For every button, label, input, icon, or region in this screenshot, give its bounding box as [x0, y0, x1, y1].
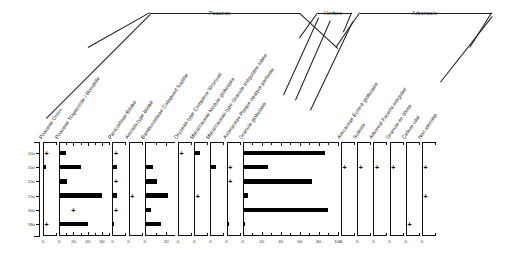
taxon-panel[interactable]: 0+ — [341, 142, 354, 236]
bar[interactable] — [59, 222, 88, 226]
panel-axis-top — [357, 142, 370, 143]
taxon-panel[interactable]: 020 — [145, 142, 175, 236]
panel-tick-label: 0 — [111, 239, 113, 244]
trace-marker: + — [71, 206, 75, 213]
panel-tick — [370, 142, 371, 145]
bar[interactable] — [243, 222, 245, 226]
panel-tick — [73, 232, 74, 236]
trace-marker: + — [424, 192, 428, 199]
panel-tick — [145, 142, 146, 146]
panel-tick-label: 40 — [278, 239, 283, 244]
panel-axis-bottom — [227, 235, 240, 236]
bar[interactable] — [227, 222, 229, 226]
panel-axis-bottom — [341, 235, 354, 236]
panel-tick — [102, 232, 103, 236]
panel-value-axis — [390, 142, 391, 236]
panel-tick — [156, 142, 157, 145]
bar[interactable] — [194, 151, 200, 155]
panel-tick — [166, 142, 167, 146]
bar[interactable] — [210, 165, 215, 169]
bar[interactable] — [112, 165, 116, 169]
panel-tick — [223, 233, 224, 236]
bar[interactable] — [145, 193, 169, 197]
bar[interactable] — [112, 222, 114, 226]
panel-tick — [370, 233, 371, 236]
bar[interactable] — [112, 193, 116, 197]
group-rule-herbes — [318, 13, 352, 14]
bar[interactable] — [243, 208, 329, 212]
panel-tick — [112, 142, 113, 146]
panel-tick — [56, 142, 57, 145]
panel-tick — [435, 142, 436, 145]
panel-tick — [227, 142, 228, 146]
panel-value-axis — [210, 142, 211, 236]
taxon-panel[interactable]: 0+++ — [112, 142, 125, 236]
bar[interactable] — [243, 193, 248, 197]
panel-tick — [88, 232, 89, 236]
panel-axis-top — [227, 142, 240, 143]
panel-tick — [166, 232, 167, 236]
panel-tick — [309, 233, 310, 236]
panel-tick-label: 0 — [42, 239, 44, 244]
panel-tick — [338, 142, 339, 146]
taxon-panel[interactable]: 0++ — [227, 142, 240, 236]
bar[interactable] — [145, 208, 151, 212]
panel-tick — [81, 142, 82, 145]
trace-marker: + — [391, 164, 395, 171]
taxon-panel[interactable]: 020406080100 — [243, 142, 338, 236]
taxon-panel[interactable]: 0+ — [178, 142, 191, 236]
panel-axis-top — [145, 142, 175, 143]
panel-value-axis — [373, 142, 374, 236]
taxon-panel[interactable]: 0 — [210, 142, 223, 236]
taxon-panel[interactable]: 0+ — [390, 142, 403, 236]
panel-tick-label: 0 — [58, 239, 60, 244]
panel-axis-bottom — [406, 235, 419, 236]
phytolith-diagram: Poaceae Herbes Arboricole Poaceae CrossP… — [0, 0, 509, 261]
panel-tick — [319, 232, 320, 236]
panel-tick-label: 60 — [297, 239, 302, 244]
taxon-panel[interactable]: 0++ — [422, 142, 435, 236]
panel-tick-label: 0 — [242, 239, 244, 244]
bar[interactable] — [243, 179, 312, 183]
bar[interactable] — [145, 165, 154, 169]
bar[interactable] — [59, 165, 80, 169]
taxon-panel[interactable]: 0++ — [43, 142, 56, 236]
panel-tick — [354, 233, 355, 236]
trace-marker: + — [114, 178, 118, 185]
taxon-panel[interactable]: 0+ — [129, 142, 142, 236]
panel-tick — [422, 142, 423, 146]
taxon-panel[interactable]: 0+ — [373, 142, 386, 236]
panel-tick — [262, 232, 263, 236]
panel-value-axis — [194, 142, 195, 236]
panel-tick — [73, 142, 74, 146]
panel-tick — [43, 232, 44, 236]
bar[interactable] — [243, 165, 269, 169]
panel-tick — [271, 142, 272, 145]
bar[interactable] — [145, 222, 161, 226]
panel-tick — [341, 232, 342, 236]
panel-tick — [102, 142, 103, 146]
panel-tick — [373, 232, 374, 236]
bar[interactable] — [59, 151, 66, 155]
panel-tick-label: 0 — [225, 239, 227, 244]
taxon-panel[interactable]: 0+ — [357, 142, 370, 236]
trace-marker: + — [114, 206, 118, 213]
panel-tick — [406, 142, 407, 146]
taxon-panel[interactable]: 0+ — [194, 142, 207, 236]
panel-tick — [243, 232, 244, 236]
trace-marker: + — [407, 221, 411, 228]
panel-tick — [194, 232, 195, 236]
taxon-panel[interactable]: 0+ — [406, 142, 419, 236]
panel-tick — [142, 233, 143, 236]
bar[interactable] — [43, 165, 46, 169]
panel-tick — [194, 142, 195, 146]
panel-tick — [271, 233, 272, 236]
bar[interactable] — [59, 193, 102, 197]
panel-tick — [419, 142, 420, 145]
bar[interactable] — [243, 151, 326, 155]
bar[interactable] — [59, 179, 67, 183]
bar[interactable] — [145, 179, 157, 183]
panel-tick — [142, 142, 143, 145]
taxon-panel[interactable]: 0204060+ — [59, 142, 109, 236]
trace-marker: + — [45, 221, 49, 228]
